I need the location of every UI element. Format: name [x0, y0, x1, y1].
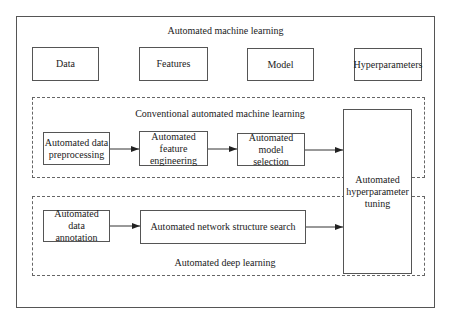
connector-arrows — [0, 0, 449, 324]
